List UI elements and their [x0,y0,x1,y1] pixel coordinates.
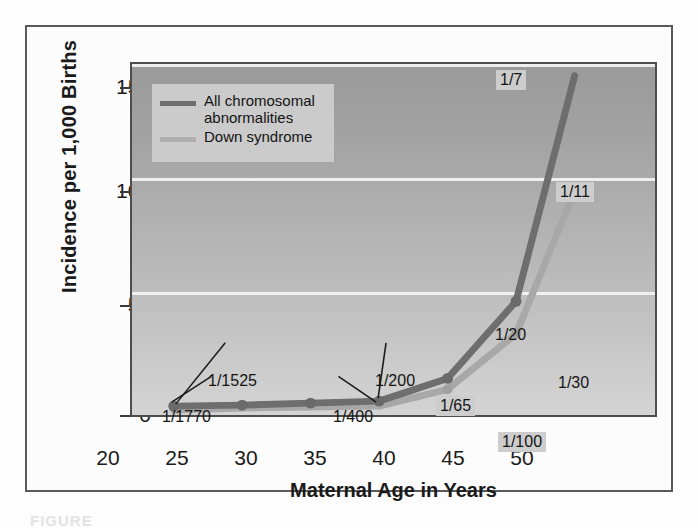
x-tick-label-35: 35 [285,446,345,470]
figure-caption: FIGURE [30,512,93,528]
annotation-1-11: 1/11 [556,182,594,202]
y-tick-mark-150 [120,87,130,89]
legend-item-all-chromosomal: All chromosomal abnormalities [160,92,328,126]
gridline-100 [132,178,655,181]
annotation-1-200: 1/200 [375,372,415,390]
legend-label-all-chromosomal: All chromosomal abnormalities [204,92,328,126]
annotation-1-30: 1/30 [558,374,589,392]
x-tick-label-40: 40 [354,446,414,470]
data-point-marker [443,384,453,394]
data-point-marker [442,373,453,384]
data-point-marker [237,400,248,411]
annotation-1-1770: 1/1770 [162,408,211,426]
leader-line-400 [338,376,376,402]
y-tick-mark-100 [120,191,130,193]
chart-legend: All chromosomal abnormalities Down syndr… [152,84,334,162]
data-point-marker [374,396,385,407]
leader-line-1770 [172,376,212,402]
legend-swatch-icon [160,137,196,142]
figure-page: Incidence per 1,000 Births 150 100 50 0 … [0,0,698,528]
x-tick-label-25: 25 [147,446,207,470]
annotation-1-400: 1/400 [333,408,373,426]
annotation-1-65: 1/65 [436,396,475,416]
annotation-1-1525: 1/1525 [208,372,257,390]
annotation-1-7: 1/7 [496,70,526,90]
gridline-50 [132,292,655,295]
legend-label-down-syndrome: Down syndrome [204,128,312,145]
figure-frame: Incidence per 1,000 Births 150 100 50 0 … [25,25,673,492]
x-tick-label-30: 30 [216,446,276,470]
y-tick-mark-0 [120,415,130,417]
y-tick-mark-50 [120,305,130,307]
x-tick-label-45: 45 [423,446,483,470]
annotation-1-100: 1/100 [498,432,546,452]
gridline-150 [132,64,655,67]
x-axis-title: Maternal Age in Years [130,479,657,502]
data-point-marker [305,398,316,409]
annotation-1-20: 1/20 [495,326,526,344]
x-tick-label-20: 20 [78,446,138,470]
legend-item-down-syndrome: Down syndrome [160,128,328,145]
plot-area: All chromosomal abnormalities Down syndr… [130,62,657,417]
y-axis-title: Incidence per 1,000 Births [58,7,81,327]
legend-swatch-icon [160,101,196,106]
data-point-marker [511,296,522,307]
